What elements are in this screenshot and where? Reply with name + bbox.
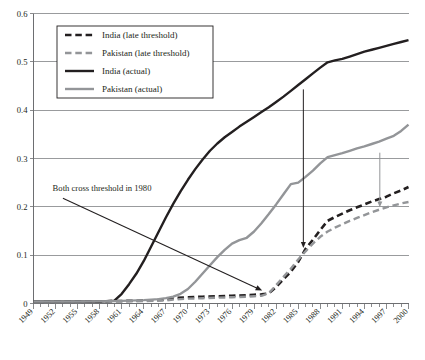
legend-label-2: India (actual) xyxy=(102,66,150,76)
y-axis-label-0: 0 xyxy=(23,299,27,309)
y-axis-label-5: 0.5 xyxy=(17,57,28,67)
x-axis-label-1964: 1964 xyxy=(127,306,146,325)
y-axis-label-3: 0.3 xyxy=(17,154,28,164)
legend-label-1: Pakistan (late threshold) xyxy=(102,48,189,58)
x-axis-label-1994: 1994 xyxy=(348,306,367,325)
x-axis-label-1979: 1979 xyxy=(237,307,255,325)
annotation-arrow-line-threshold-note xyxy=(63,198,257,288)
x-axis-label-2000: 2000 xyxy=(392,307,410,325)
x-axis-label-1973: 1973 xyxy=(193,307,211,325)
x-axis-label-1961: 1961 xyxy=(105,307,123,325)
annotation-text-threshold-note: Both cross threshold in 1980 xyxy=(53,183,152,193)
x-axis-label-1955: 1955 xyxy=(61,307,79,325)
x-axis-label-1985: 1985 xyxy=(281,307,299,325)
x-axis-label-1991: 1991 xyxy=(326,307,344,325)
series-line-pakistan-actual xyxy=(34,125,409,302)
line-chart: 00.10.20.30.40.50.6 19491952195519581961… xyxy=(0,0,425,360)
x-axis-label-1997: 1997 xyxy=(370,307,388,325)
y-axis-label-1: 0.1 xyxy=(17,250,28,260)
x-axis-label-1967: 1967 xyxy=(149,307,167,325)
y-axis-tick-labels: 00.10.20.30.40.50.6 xyxy=(17,9,28,309)
x-axis-label-1952: 1952 xyxy=(39,307,57,325)
x-axis-label-1982: 1982 xyxy=(259,307,277,325)
y-axis-label-6: 0.6 xyxy=(17,9,28,19)
legend-label-3: Pakistan (actual) xyxy=(102,84,162,94)
legend-label-0: India (late threshold) xyxy=(102,30,177,40)
annotations-group: Both cross threshold in 1980 xyxy=(53,89,383,290)
x-axis-label-1976: 1976 xyxy=(215,307,233,325)
chart-container: 00.10.20.30.40.50.6 19491952195519581961… xyxy=(0,0,425,360)
x-axis-tick-labels: 1949195219551958196119641967197019731976… xyxy=(17,306,410,325)
x-axis-label-1970: 1970 xyxy=(171,307,189,325)
x-axis-label-1958: 1958 xyxy=(83,307,101,325)
y-axis-label-2: 0.2 xyxy=(17,202,28,212)
marker-arrow-head-india-gap-marker xyxy=(301,242,306,248)
y-axis-label-4: 0.4 xyxy=(17,105,28,115)
x-axis-label-1949: 1949 xyxy=(17,307,35,325)
chart-legend: India (late threshold)Pakistan (late thr… xyxy=(57,26,213,98)
x-axis-label-1988: 1988 xyxy=(303,307,321,325)
series-line-india-late-threshold xyxy=(34,187,409,302)
